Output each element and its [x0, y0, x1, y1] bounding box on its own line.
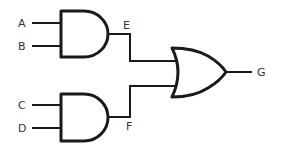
- and-gate-2: [61, 94, 108, 141]
- and-gate-1: [61, 11, 108, 57]
- logic-circuit-diagram: A B C D E F G: [0, 0, 281, 149]
- wire-e: [108, 34, 180, 61]
- wire-f: [108, 86, 180, 117]
- label-a: A: [18, 17, 26, 30]
- label-f: F: [126, 120, 132, 133]
- label-c: C: [18, 99, 26, 112]
- label-e: E: [123, 19, 130, 32]
- label-g: G: [257, 66, 266, 79]
- or-gate: [172, 48, 226, 97]
- circuit-canvas: A B C D E F G: [0, 0, 281, 149]
- label-b: B: [18, 40, 26, 53]
- label-d: D: [18, 122, 26, 135]
